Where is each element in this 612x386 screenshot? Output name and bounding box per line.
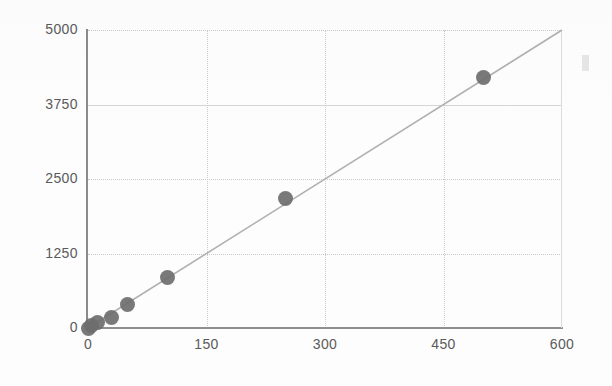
- data-point: [90, 315, 105, 330]
- y-tick-label: 1250: [45, 245, 78, 261]
- gridline-vertical: [207, 30, 208, 328]
- data-point: [278, 191, 293, 206]
- y-tick-label: 3750: [45, 96, 78, 112]
- x-tick-label: 600: [550, 336, 575, 352]
- plot-right-edge: [561, 30, 562, 328]
- x-tick-label: 300: [313, 336, 338, 352]
- chart-screenshot: 01250250037505000 0150300450600: [0, 0, 612, 386]
- scan-artifact: [582, 55, 589, 71]
- y-axis-line: [86, 29, 88, 329]
- x-axis-line: [87, 327, 563, 329]
- y-tick-label: 2500: [45, 170, 78, 186]
- y-tick-label: 0: [70, 319, 78, 335]
- data-point: [104, 310, 119, 325]
- x-tick-label: 450: [431, 336, 456, 352]
- x-tick-label: 0: [84, 336, 92, 352]
- plot-area: [88, 30, 562, 328]
- data-point: [476, 70, 491, 85]
- x-tick-label: 150: [194, 336, 219, 352]
- y-axis-tick-labels: 01250250037505000: [0, 0, 78, 386]
- gridline-vertical: [325, 30, 326, 328]
- data-point: [160, 270, 175, 285]
- y-tick-label: 5000: [45, 21, 78, 37]
- gridline-vertical: [444, 30, 445, 328]
